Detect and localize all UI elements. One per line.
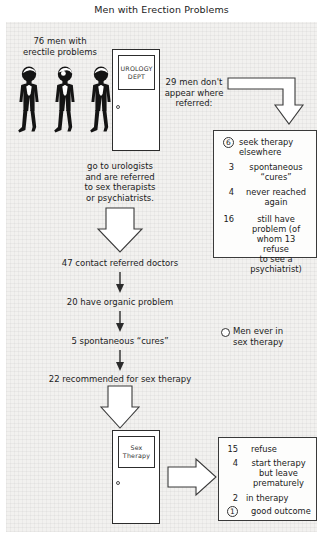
outcome-count: 3 <box>219 162 239 182</box>
no-show-outcomes-box: 6 seek therapy elsewhere 3 spontaneous “… <box>213 130 317 258</box>
cohort-label: 76 men with erectile problems <box>12 36 108 57</box>
open-circle-icon <box>221 328 230 337</box>
urology-door-sign: UROLOGY DEPT <box>118 55 155 90</box>
legend-label: Men ever in sex therapy <box>233 326 319 347</box>
outcome-row: 1 good outcome <box>223 506 314 517</box>
no-show-label: 29 men don't appear where referred: <box>163 77 225 109</box>
therapy-outcomes-box: 15 refuse 4 start therapy but leave prem… <box>218 437 317 521</box>
outcome-row: 2 in therapy <box>223 493 314 503</box>
outcome-text: in therapy <box>243 493 314 503</box>
outcome-text: start therapy but leave prematurely <box>243 458 314 488</box>
outcome-row: 4 never reached again <box>219 187 313 207</box>
urology-door[interactable]: UROLOGY DEPT <box>112 49 160 151</box>
outcome-count: 4 <box>223 458 243 488</box>
referral-path-label: go to urologists and are referred to sex… <box>66 161 174 203</box>
outcome-text: seek therapy elsewhere <box>239 137 313 157</box>
outcome-row: 4 start therapy but leave prematurely <box>223 458 314 488</box>
outcome-row: 16 still have problem (of whom 13 refuse… <box>219 214 313 274</box>
outcome-count: 2 <box>223 493 243 503</box>
outcome-row: 3 spontaneous “cures” <box>219 162 313 182</box>
page-title: Men with Erection Problems <box>0 4 323 15</box>
outcome-text: spontaneous “cures” <box>239 162 313 182</box>
outcome-text: refuse <box>243 444 314 454</box>
organic-label: 20 have organic problem <box>30 297 210 308</box>
outcome-row: 6 seek therapy elsewhere <box>219 137 313 157</box>
contact-label: 47 contact referred doctors <box>30 258 210 269</box>
recommended-label: 22 recommended for sex therapy <box>18 374 222 385</box>
diagram-page: Men with Erection Problems 76 men with e… <box>0 0 323 536</box>
outcome-count: 16 <box>219 214 239 274</box>
circled-count: 6 <box>223 137 234 148</box>
outcome-text: still have problem (of whom 13 refuse to… <box>239 214 313 274</box>
door-knob-icon <box>116 105 120 109</box>
spontaneous-cures-label: 5 spontaneous “cures” <box>30 336 210 347</box>
outcome-count: 1 <box>223 506 243 517</box>
sex-therapy-door[interactable]: Sex Therapy <box>112 430 160 524</box>
outcome-row: 15 refuse <box>223 444 314 454</box>
outcome-count: 6 <box>219 137 239 157</box>
outcome-count: 15 <box>223 444 243 454</box>
outcome-count: 4 <box>219 187 239 207</box>
sex-therapy-door-sign: Sex Therapy <box>118 436 155 468</box>
outcome-text: never reached again <box>239 187 313 207</box>
door-knob-icon <box>116 481 120 485</box>
outcome-text: good outcome <box>243 506 314 517</box>
circled-count: 1 <box>227 506 238 517</box>
